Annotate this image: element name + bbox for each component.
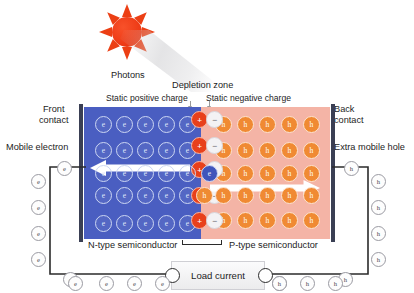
p-type-semiconductor-label: P-type semiconductor: [229, 240, 318, 250]
back-contact-label-line1: Back: [334, 104, 354, 114]
hole-carrier: h: [237, 165, 254, 182]
hole-carrier: h: [259, 116, 276, 133]
sun-ray-icon: [99, 27, 112, 37]
hole-carrier: h: [281, 142, 298, 159]
hole-carrier: h: [237, 187, 254, 204]
static-negative-charge: −: [206, 111, 223, 128]
hole-carrier: h: [303, 142, 320, 159]
mobile-electron-label: Mobile electron: [6, 142, 68, 152]
extra-mobile-hole-label: Extra mobile hole: [334, 142, 405, 152]
wire-electron: e: [68, 276, 83, 291]
depletion-zone-label: Depletion zone: [172, 80, 233, 90]
wire-electron: e: [31, 200, 46, 215]
static-positive-charge-label: Static positive charge: [106, 94, 188, 104]
wire-electron: e: [31, 252, 46, 267]
electron-carrier: e: [137, 187, 154, 204]
sun-ray-icon: [122, 4, 132, 17]
electron-carrier: e: [137, 215, 154, 232]
front-contact-label-line1: Front: [43, 104, 64, 114]
hole-carrier: h: [281, 187, 298, 204]
hole-carrier: h: [303, 165, 320, 182]
hole-carrier: h: [303, 116, 320, 133]
electron-carrier: e: [116, 187, 133, 204]
wire-electron: e: [99, 276, 114, 291]
wire-electron: e: [31, 226, 46, 241]
electron-carrier: e: [158, 116, 175, 133]
wire-hole: h: [371, 174, 386, 189]
electron-carrier: e: [116, 165, 133, 182]
solar-cell-diagram: Photons Depletion zone Static positive c…: [0, 0, 414, 293]
load-current-label: Load current: [191, 270, 245, 281]
electron-carrier: e: [116, 215, 133, 232]
load-current-box[interactable]: Load current: [171, 261, 265, 290]
electron-carrier: e: [137, 165, 154, 182]
hole-carrier: h: [215, 187, 232, 204]
hole-carrier: h: [259, 142, 276, 159]
wire-hole: h: [272, 276, 287, 291]
hole-carrier: h: [259, 165, 276, 182]
electron-carrier: e: [158, 165, 175, 182]
sun-ray-icon: [142, 27, 155, 37]
n-type-semiconductor-label: N-type semiconductor: [88, 240, 177, 250]
wire-hole: h: [371, 252, 386, 267]
solar-cell-body: eeeeeeeeeeeeeeeeeeee hhhhhhhhhhhhhhhhhhh…: [84, 107, 330, 239]
photons-label: Photons: [111, 70, 145, 80]
electron-carrier: e: [95, 116, 112, 133]
hole-carrier: h: [237, 142, 254, 159]
electron-carrier: e: [158, 142, 175, 159]
electron-carrier: e: [116, 116, 133, 133]
wire-hole: h: [371, 200, 386, 215]
hole-carrier: h: [237, 212, 254, 229]
wire-hole: h: [300, 276, 315, 291]
crossing-electron: e: [201, 165, 218, 182]
static-negative-charge: −: [206, 212, 223, 229]
wire-hole: h: [344, 161, 359, 176]
electron-carrier: e: [158, 215, 175, 232]
hole-carrier: h: [237, 116, 254, 133]
wire-electron: e: [57, 161, 72, 176]
hole-carrier: h: [303, 187, 320, 204]
static-negative-charge-label: Static negative charge: [206, 94, 291, 104]
front-contact-label-line2: contact: [39, 115, 69, 125]
wire-electron: e: [155, 276, 170, 291]
wire-hole: h: [328, 276, 343, 291]
electron-carrier: e: [95, 187, 112, 204]
wire-electron: e: [127, 276, 142, 291]
front-contact-bar[interactable]: [79, 104, 83, 242]
load-node-right: [258, 268, 273, 283]
sun-ray-icon: [122, 47, 132, 60]
hole-carrier: h: [303, 212, 320, 229]
electron-carrier: e: [179, 165, 196, 182]
back-contact-bar[interactable]: [331, 104, 335, 242]
wire-hole: h: [371, 226, 386, 241]
hole-carrier: h: [281, 116, 298, 133]
electron-carrier: e: [137, 116, 154, 133]
static-negative-charge: −: [206, 137, 223, 154]
electron-carrier: e: [137, 142, 154, 159]
electron-carrier: e: [95, 142, 112, 159]
crossing-hole: h: [196, 187, 213, 204]
hole-carrier: h: [281, 212, 298, 229]
electron-carrier: e: [95, 215, 112, 232]
hole-carrier: h: [259, 187, 276, 204]
electron-carrier: e: [95, 165, 112, 182]
hole-carrier: h: [281, 165, 298, 182]
wire-electron: e: [31, 174, 46, 189]
hole-carrier: h: [259, 212, 276, 229]
sun-icon: [96, 4, 158, 60]
back-contact-label-line2: contact: [334, 115, 364, 125]
electron-carrier: e: [158, 187, 175, 204]
electron-carrier: e: [116, 142, 133, 159]
